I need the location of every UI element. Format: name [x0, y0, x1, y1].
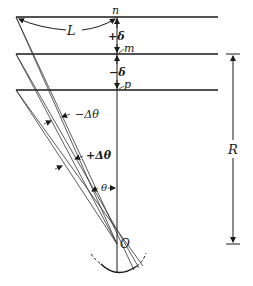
plus-dtheta-arrow-2 [55, 166, 62, 169]
label-minus-dtheta: −Δθ [75, 108, 99, 121]
ray-from-n-2 [16, 17, 117, 244]
minus-dtheta-arrow [62, 114, 70, 117]
label-R: R [227, 142, 238, 157]
label-plus-dtheta: +Δθ [86, 149, 112, 162]
label-m: m [124, 42, 134, 55]
L-arc-arrow [19, 19, 66, 30]
detector-arc-dashed-left [91, 254, 101, 264]
ray-from-p-2 [16, 90, 117, 244]
L-arc-arrow-right [82, 19, 115, 30]
ray-from-m [16, 54, 139, 268]
ray-from-n [16, 17, 134, 270]
minus-dtheta-arrow-2 [44, 121, 51, 124]
label-p: p [124, 78, 131, 91]
label-O: O [120, 237, 130, 251]
label-n: n [112, 4, 119, 17]
label-L: L [66, 23, 76, 38]
diffraction-geometry-diagram: L n +δ m −δ p −Δθ +Δθ θ O R [0, 0, 253, 286]
label-theta: θ [101, 182, 107, 193]
label-plus-delta: +δ [108, 30, 125, 43]
